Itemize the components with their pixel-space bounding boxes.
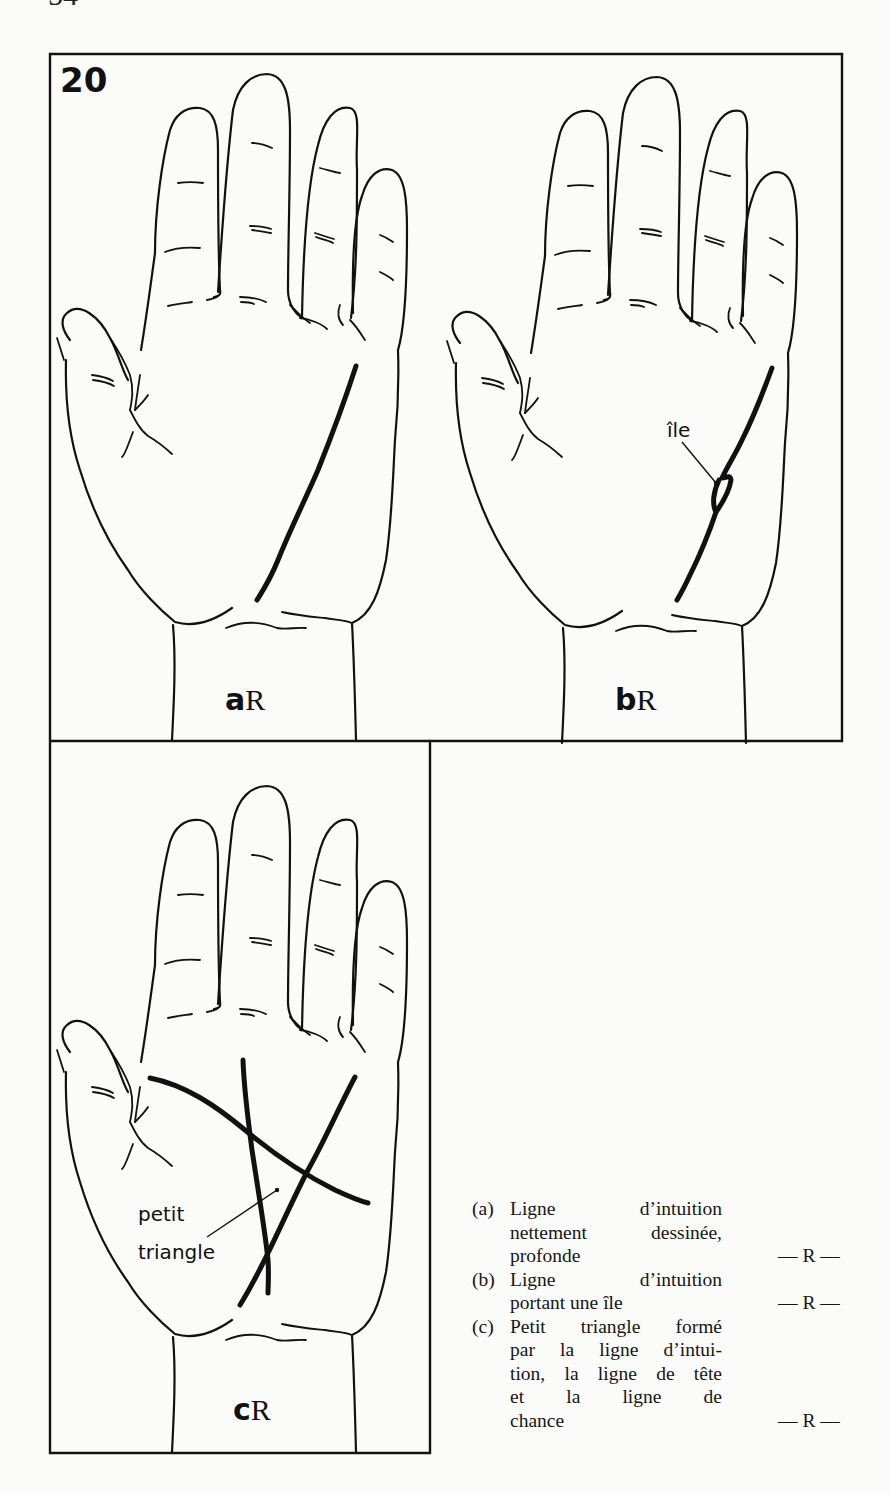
legend-key: (b): [472, 1268, 510, 1315]
hand-panel-c: petit triangle cR: [57, 786, 407, 1452]
legend-item-b: (b) Ligne d’intuition portant une île — …: [472, 1268, 882, 1315]
legend-key: (a): [472, 1197, 510, 1268]
legend-key: (c): [472, 1315, 510, 1433]
legend-mark: — R —: [722, 1197, 882, 1268]
hand-panel-b: île bR: [447, 77, 797, 743]
figure-legend: (a) Ligne d’intuition nettement dessinée…: [472, 1197, 882, 1432]
hand-panel-a: aR: [57, 74, 407, 740]
petit-triangle-label-1: petit: [138, 1202, 184, 1226]
intuition-line-b: [677, 368, 772, 600]
legend-text: Petit triangle formé par la ligne d’intu…: [510, 1315, 722, 1433]
legend-mark: — R —: [722, 1315, 882, 1433]
panel-label-b: bR: [615, 682, 657, 717]
legend-item-c: (c) Petit triangle formé par la ligne d’…: [472, 1315, 882, 1433]
legend-item-a: (a) Ligne d’intuition nettement dessinée…: [472, 1197, 882, 1268]
intuition-line-a: [257, 366, 356, 600]
panel-label-a: aR: [225, 682, 265, 717]
figure-number: 20: [60, 60, 107, 100]
panel-label-c: cR: [233, 1392, 271, 1427]
island-label: île: [666, 418, 690, 442]
legend-mark: — R —: [722, 1268, 882, 1315]
petit-triangle-label-2: triangle: [138, 1240, 215, 1264]
legend-text: Ligne d’intuition portant une île: [510, 1268, 722, 1315]
legend-text: Ligne d’intuition nettement dessinée, pr…: [510, 1197, 722, 1268]
